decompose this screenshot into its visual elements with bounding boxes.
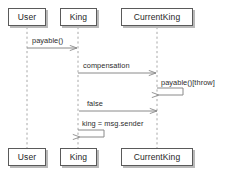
message-label-payable-throw: payable()[throw] (161, 79, 215, 86)
lifeline-foot-currentking-label: CurrentKing (134, 153, 180, 162)
lifeline-head-king[interactable]: King (60, 8, 97, 26)
message-label-payable-text: payable() (32, 36, 63, 45)
lifeline-foot-king[interactable]: King (60, 148, 97, 166)
message-arrow-payable-throw (157, 88, 183, 95)
lifeline-foot-user-label: User (18, 153, 36, 162)
lifeline-foot-currentking[interactable]: CurrentKing (121, 148, 193, 166)
message-label-compensation-text: compensation (83, 61, 130, 70)
lifeline-head-currentking-label: CurrentKing (134, 13, 180, 22)
message-label-king-assign-text: king = msg.sender (82, 119, 143, 128)
lifeline-head-king-label: King (70, 13, 87, 22)
lifeline-foot-king-label: King (70, 153, 87, 162)
sequence-diagram-canvas: User King CurrentKing payable() compensa… (0, 0, 237, 179)
message-label-false-text: false (87, 99, 103, 108)
lifeline-head-user-label: User (18, 13, 36, 22)
message-arrow-king-assign (78, 130, 104, 137)
message-label-compensation: compensation (83, 62, 130, 69)
lifeline-head-user[interactable]: User (8, 8, 46, 26)
message-label-king-assign: king = msg.sender (82, 120, 143, 127)
lifeline-foot-user[interactable]: User (8, 148, 46, 166)
lifeline-head-currentking[interactable]: CurrentKing (121, 8, 193, 26)
message-label-payable: payable() (32, 37, 63, 44)
message-label-payable-throw-text: payable()[throw] (161, 78, 215, 87)
message-label-false: false (87, 100, 103, 107)
